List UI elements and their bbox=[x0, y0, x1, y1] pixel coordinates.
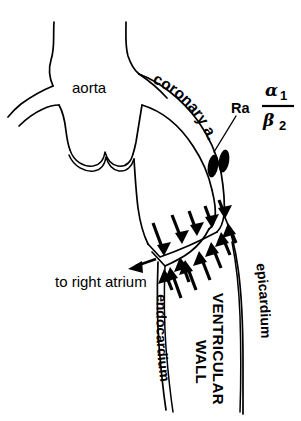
inflow-arrow-3 bbox=[189, 211, 204, 236]
label-beta-subscript: 2 bbox=[279, 118, 286, 133]
outflow-arrow-1 bbox=[164, 267, 181, 298]
label-endocardium-group: endocardium bbox=[153, 294, 173, 383]
inflow-arrow-1 bbox=[153, 223, 171, 256]
aorta-sinus-right bbox=[133, 105, 142, 154]
label-alpha-symbol: α bbox=[265, 80, 278, 100]
aorta-left-wall bbox=[49, 22, 54, 86]
aorta-sinus-left bbox=[59, 105, 70, 150]
label-endocardium: endocardium bbox=[153, 294, 173, 383]
aorta-left-branch-upper bbox=[8, 86, 53, 117]
label-ventricular-wall-line1: VENTRICULAR bbox=[210, 293, 227, 405]
label-ventricular-wall-group: VENTRICULAR WALL bbox=[193, 293, 227, 405]
label-aorta: aorta bbox=[72, 79, 107, 96]
label-beta-symbol: β bbox=[262, 110, 274, 130]
aorta-left-branch-lower bbox=[19, 105, 59, 126]
chamber-left-wall bbox=[134, 159, 148, 244]
label-coronary-artery-group: coronary a. bbox=[151, 70, 222, 143]
label-epicardium-group: epicardium bbox=[253, 262, 274, 338]
coronary-circulation-diagram: aorta coronary a. Ra α 1 β 2 to right at… bbox=[0, 0, 301, 421]
label-ra: Ra bbox=[231, 100, 250, 116]
inflow-arrow-2 bbox=[172, 215, 189, 244]
receptor-notation-group: α 1 β 2 bbox=[262, 80, 294, 133]
valve-cusp-outer bbox=[70, 150, 133, 166]
drainage-arrow-group bbox=[128, 259, 156, 273]
aortic-valve-cusps-group bbox=[69, 150, 134, 171]
label-ventricular-wall-line2: WALL bbox=[193, 340, 210, 384]
label-coronary-artery-textpath: coronary a. bbox=[151, 70, 222, 143]
epicardium-inner-line bbox=[232, 242, 241, 412]
label-epicardium: epicardium bbox=[253, 262, 274, 338]
resistance-arteriole-right bbox=[217, 149, 231, 173]
label-alpha-subscript: 1 bbox=[280, 88, 287, 103]
aorta-right-wall bbox=[126, 22, 139, 74]
inflow-arrow-4 bbox=[205, 206, 219, 228]
label-endocardium-textpath: endocardium bbox=[153, 294, 173, 383]
label-coronary-artery: coronary a. bbox=[151, 70, 222, 143]
diagram-canvas: aorta coronary a. Ra α 1 β 2 to right at… bbox=[0, 0, 301, 421]
label-epicardium-textpath: epicardium bbox=[253, 262, 274, 338]
drainage-arrow-head bbox=[128, 261, 143, 273]
label-to-right-atrium: to right atrium bbox=[55, 273, 147, 290]
